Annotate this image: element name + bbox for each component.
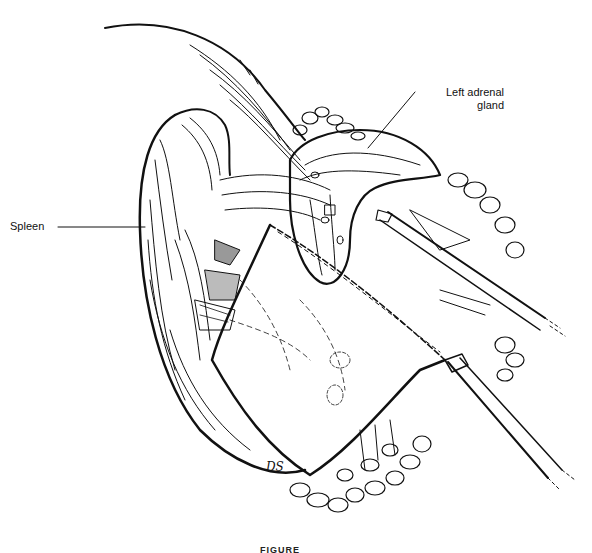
grasper-upper <box>376 210 565 336</box>
left-adrenal-gland <box>290 130 440 284</box>
fat-clusters-lower <box>290 420 431 512</box>
label-adrenal-line1: Left adrenal <box>420 86 504 99</box>
label-spleen: Spleen <box>10 220 44 233</box>
surgical-illustration <box>0 0 592 553</box>
figure-caption: FIGURE <box>260 545 300 553</box>
fat-clusters-right <box>410 173 524 381</box>
splenorenal-ligament <box>105 25 310 180</box>
fat-clusters-upper <box>293 107 365 140</box>
label-adrenal-line2: gland <box>420 99 504 112</box>
label-left-adrenal-gland: Left adrenal gland <box>420 86 504 112</box>
grasper-lower <box>445 354 575 490</box>
retrieval-bag <box>212 225 445 475</box>
artist-signature: DS <box>266 460 284 474</box>
adrenal-leader-line <box>368 92 415 148</box>
